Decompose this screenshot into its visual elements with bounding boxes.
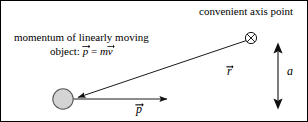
momentum-caption: momentum of linearly moving object: p = … [14, 31, 149, 59]
momentum-caption-prefix: object: [50, 45, 83, 57]
p-vector-label: p [136, 103, 142, 116]
r-vector-label-text: r [227, 64, 232, 78]
double-headed-arrow-icon [273, 43, 282, 110]
p-vector-label-text: p [136, 102, 142, 116]
momentum-caption-v: v [108, 45, 113, 57]
axis-point-caption: convenient axis point [199, 6, 293, 18]
crossed-circle-icon [245, 32, 256, 43]
vector-p-symbol: p [83, 45, 89, 59]
gray-filled-circle-icon [53, 89, 73, 109]
momentum-caption-line2: object: p = mv [14, 45, 149, 59]
diagram-vector-layer [1, 1, 307, 121]
physics-diagram-figure: convenient axis point momentum of linear… [0, 0, 308, 122]
momentum-caption-equals: = [88, 45, 100, 57]
distance-a-label: a [287, 65, 293, 78]
momentum-caption-m: m [100, 45, 108, 57]
r-vector-label: r [227, 65, 232, 78]
vector-p-symbol: p [136, 103, 142, 116]
momentum-caption-p: p [83, 45, 89, 57]
vector-v-symbol: v [108, 45, 113, 59]
vector-r-symbol: r [227, 65, 232, 78]
momentum-caption-line1: momentum of linearly moving [14, 31, 149, 43]
